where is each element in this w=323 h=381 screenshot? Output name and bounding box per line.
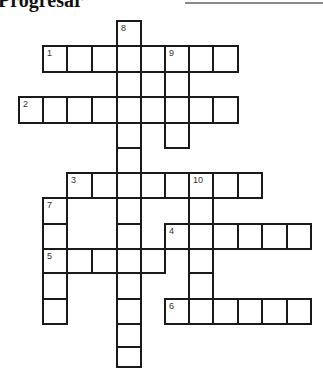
crossword-cell[interactable] <box>116 172 142 199</box>
clue-number: 5 <box>47 252 52 261</box>
clue-number: 6 <box>169 302 174 311</box>
clue-number: 9 <box>169 49 174 58</box>
crossword-cell[interactable] <box>66 45 93 73</box>
crossword-cell[interactable] <box>164 122 190 149</box>
crossword-cell[interactable] <box>212 223 239 250</box>
crossword-cell[interactable] <box>261 223 288 250</box>
crossword-cell[interactable] <box>164 172 190 199</box>
crossword-cell[interactable] <box>66 248 93 274</box>
clue-number: 8 <box>121 24 126 33</box>
crossword-cell[interactable] <box>188 45 214 73</box>
clue-number: 10 <box>193 176 203 185</box>
crossword-cell[interactable] <box>91 96 118 124</box>
crossword-cell[interactable] <box>261 298 288 325</box>
crossword-cell[interactable]: 9 <box>164 45 190 73</box>
crossword-cell[interactable] <box>188 272 214 300</box>
crossword-cell[interactable] <box>91 45 118 73</box>
crossword-cell[interactable] <box>116 197 142 225</box>
crossword-cell[interactable] <box>116 122 142 149</box>
crossword-cell[interactable] <box>188 96 214 124</box>
clue-number: 4 <box>169 227 174 236</box>
crossword-cell[interactable]: 5 <box>42 248 68 274</box>
crossword-cell[interactable] <box>116 71 142 98</box>
crossword-cell[interactable] <box>164 96 190 124</box>
crossword-cell[interactable] <box>116 346 142 368</box>
clue-number: 3 <box>71 176 76 185</box>
crossword-cell[interactable]: 10 <box>188 172 214 199</box>
crossword-cell[interactable] <box>91 248 118 274</box>
clue-number: 7 <box>47 201 52 210</box>
clue-number: 2 <box>23 100 28 109</box>
clue-number: 1 <box>47 49 52 58</box>
crossword-cell[interactable]: 8 <box>116 20 142 47</box>
crossword-cell[interactable] <box>188 248 214 274</box>
crossword-cell[interactable] <box>286 223 312 250</box>
crossword-cell[interactable] <box>116 223 142 250</box>
crossword-cell[interactable] <box>140 96 166 124</box>
crossword-cell[interactable] <box>42 298 68 325</box>
crossword-cell[interactable] <box>116 45 142 73</box>
crossword-cell[interactable]: 6 <box>164 298 190 325</box>
crossword-cell[interactable] <box>188 223 214 250</box>
crossword-cell[interactable] <box>237 223 263 250</box>
crossword-cell[interactable] <box>286 298 312 325</box>
crossword-cell[interactable] <box>212 96 239 124</box>
crossword-cell[interactable] <box>116 272 142 300</box>
crossword-cell[interactable] <box>116 323 142 348</box>
crossword-cell[interactable] <box>116 248 142 274</box>
crossword-cell[interactable] <box>212 172 239 199</box>
crossword-grid: 81923107456 <box>0 0 323 381</box>
crossword-cell[interactable]: 3 <box>66 172 93 199</box>
crossword-cell[interactable] <box>42 272 68 300</box>
crossword-cell[interactable] <box>42 223 68 250</box>
crossword-cell[interactable] <box>116 298 142 325</box>
crossword-cell[interactable]: 4 <box>164 223 190 250</box>
crossword-cell[interactable] <box>140 248 166 274</box>
crossword-cell[interactable]: 7 <box>42 197 68 225</box>
crossword-cell[interactable] <box>164 71 190 98</box>
crossword-cell[interactable] <box>212 45 239 73</box>
crossword-cell[interactable] <box>116 147 142 174</box>
crossword-cell[interactable] <box>66 96 93 124</box>
crossword-cell[interactable] <box>116 96 142 124</box>
crossword-cell[interactable] <box>188 197 214 225</box>
crossword-cell[interactable] <box>91 172 118 199</box>
crossword-cell[interactable] <box>237 172 263 199</box>
crossword-cell[interactable] <box>140 172 166 199</box>
crossword-cell[interactable]: 2 <box>18 96 44 124</box>
crossword-cell[interactable] <box>188 298 214 325</box>
crossword-cell[interactable] <box>237 298 263 325</box>
crossword-cell[interactable]: 1 <box>42 45 68 73</box>
crossword-cell[interactable] <box>212 298 239 325</box>
crossword-cell[interactable] <box>140 45 166 73</box>
crossword-cell[interactable] <box>42 96 68 124</box>
